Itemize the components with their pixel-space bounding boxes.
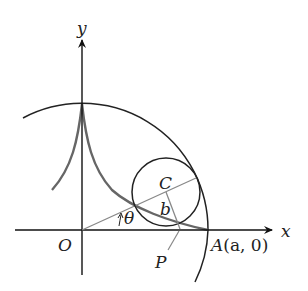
x-axis-label: x — [281, 221, 291, 241]
y-axis-label: y — [76, 18, 87, 38]
point-p-label: P — [154, 252, 167, 272]
diagram-canvas: y x O C b θ P A(a, 0) — [0, 0, 308, 291]
origin-label: O — [58, 235, 72, 255]
radius-label: b — [160, 199, 171, 219]
point-a-label: A(a, 0) — [209, 235, 268, 255]
angle-label: θ — [124, 208, 134, 228]
p-leader — [168, 231, 179, 250]
center-label: C — [159, 173, 172, 193]
astroid-diagram: y x O C b θ P A(a, 0) — [0, 0, 308, 291]
